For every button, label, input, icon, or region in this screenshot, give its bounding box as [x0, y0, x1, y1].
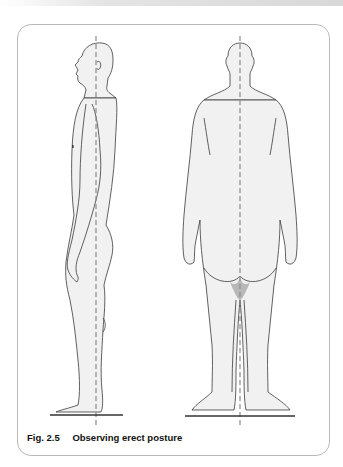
figure-number: Fig. 2.5	[27, 432, 60, 443]
posterior-view-figure	[183, 43, 297, 410]
figure-title: Observing erect posture	[72, 432, 182, 443]
figure-caption: Fig. 2.5 Observing erect posture	[27, 432, 182, 443]
posture-illustration	[0, 0, 343, 467]
ground-lines	[50, 415, 295, 416]
lateral-view-figure	[56, 43, 117, 412]
